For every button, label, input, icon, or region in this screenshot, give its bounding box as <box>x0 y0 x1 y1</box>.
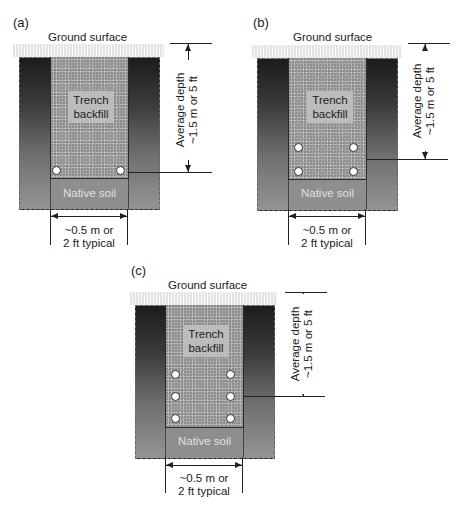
depth-label-line1: Average depth <box>411 51 424 151</box>
pipe-icon <box>52 166 61 175</box>
native-soil-block: Native soil <box>288 180 367 209</box>
trench-backfill-label: Trench backfill <box>307 91 353 123</box>
pipe-icon <box>226 414 235 423</box>
ground-surface-label: Ground surface <box>48 31 127 43</box>
width-label-line2: 2 ft typical <box>50 237 128 250</box>
depth-label: Average depth ~1.5 m or 5 ft <box>289 294 317 394</box>
panel-label: (b) <box>253 15 269 30</box>
depth-label-line2: ~1.5 m or 5 ft <box>424 51 437 151</box>
trench-backfill-label: Trench backfill <box>183 325 229 357</box>
trench-label-line1: Trench <box>310 93 350 107</box>
trench-backfill <box>165 305 244 428</box>
trench-label-line2: backfill <box>310 107 350 121</box>
arrow-up-icon <box>185 44 191 51</box>
pipe-icon <box>171 392 180 401</box>
ground-surface-label: Ground surface <box>293 31 372 43</box>
pipe-icon <box>226 370 235 379</box>
depth-label-line1: Average depth <box>289 294 302 394</box>
native-soil-block: Native soil <box>165 428 244 457</box>
width-dimension-line <box>51 216 127 217</box>
trench-label-line1: Trench <box>71 93 111 107</box>
width-label: ~0.5 m or 2 ft typical <box>50 224 128 250</box>
dimension-line-top <box>408 43 450 44</box>
width-dimension-line <box>289 216 365 217</box>
pipe-icon <box>294 167 303 176</box>
trench-label-line1: Trench <box>186 327 226 341</box>
width-label-line1: ~0.5 m or <box>165 472 243 485</box>
depth-label-line1: Average depth <box>174 60 187 160</box>
arrow-right-icon <box>235 462 242 468</box>
native-soil-label: Native soil <box>289 187 366 199</box>
trench-backfill-label: Trench backfill <box>68 91 114 123</box>
ground-surface-label: Ground surface <box>168 279 247 291</box>
trench-label-line2: backfill <box>71 107 111 121</box>
width-dimension-line <box>166 465 242 466</box>
width-label-line1: ~0.5 m or <box>50 224 128 237</box>
width-label-line2: 2 ft typical <box>165 485 243 498</box>
arrow-left-icon <box>166 462 173 468</box>
ground-surface-hatch <box>13 44 164 57</box>
depth-label-line2: ~1.5 m or 5 ft <box>302 294 315 394</box>
dimension-line-top <box>170 43 212 44</box>
depth-label: Average depth ~1.5 m or 5 ft <box>174 60 202 160</box>
arrow-right-icon <box>358 213 365 219</box>
depth-label-line2: ~1.5 m or 5 ft <box>187 60 200 160</box>
arrow-left-icon <box>51 213 58 219</box>
pipe-icon <box>349 167 358 176</box>
width-label-line1: ~0.5 m or <box>288 224 366 237</box>
arrow-up-icon <box>422 44 428 51</box>
arrow-right-icon <box>120 213 127 219</box>
width-label: ~0.5 m or 2 ft typical <box>288 224 366 250</box>
pipe-icon <box>349 143 358 152</box>
pipe-icon <box>171 370 180 379</box>
width-label: ~0.5 m or 2 ft typical <box>165 472 243 498</box>
ground-surface-hatch <box>252 45 402 58</box>
panel-label: (c) <box>131 263 146 278</box>
trench-label-line2: backfill <box>186 341 226 355</box>
native-soil-label: Native soil <box>51 187 128 199</box>
dimension-line-bottom <box>128 172 212 173</box>
dimension-line-bottom <box>243 396 325 397</box>
depth-label: Average depth ~1.5 m or 5 ft <box>411 51 439 151</box>
native-soil-label: Native soil <box>166 435 243 447</box>
dimension-line-bottom <box>366 159 448 160</box>
pipe-icon <box>171 414 180 423</box>
native-soil-block: Native soil <box>50 179 129 209</box>
arrow-left-icon <box>289 213 296 219</box>
pipe-icon <box>116 166 125 175</box>
pipe-icon <box>294 143 303 152</box>
arrow-down-icon <box>185 165 191 172</box>
dimension-line-top <box>285 292 327 293</box>
ground-surface-hatch <box>130 292 277 305</box>
arrow-down-icon <box>422 152 428 159</box>
pipe-icon <box>226 392 235 401</box>
width-label-line2: 2 ft typical <box>288 237 366 250</box>
panel-label: (a) <box>13 15 29 30</box>
